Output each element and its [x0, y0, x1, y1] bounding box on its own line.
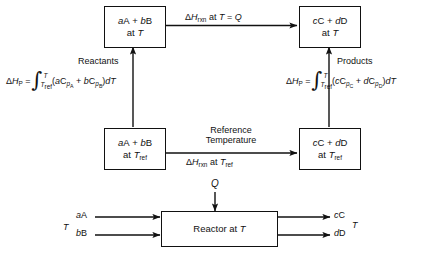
- label-heat-input: Q: [211, 178, 219, 189]
- label-inlet-b: bB: [76, 228, 87, 238]
- box-reactants-at-T-line1: aA + bB: [118, 15, 152, 27]
- integral-products-upper: T: [324, 73, 328, 80]
- integral-products-limits: T Tref: [322, 73, 333, 89]
- box-reactants-at-Tref: aA + bB at Tref: [104, 128, 166, 170]
- integral-reactants-limits: T Tref: [42, 73, 53, 89]
- box-products-at-Tref-line2: at Tref: [318, 149, 342, 161]
- integral-products-integrand: (cCpC + dCpD)dT: [332, 76, 396, 86]
- label-reference-reaction: ΔHrxn at Tref: [186, 157, 233, 167]
- box-products-at-Tref-line1: cC + dD: [313, 137, 348, 149]
- integral-products-lower: Tref: [321, 82, 333, 89]
- box-reactants-at-Tref-line1: aA + bB: [118, 137, 152, 149]
- integral-reactants-lower: Tref: [41, 82, 53, 89]
- integral-reactants-integrand: (aCpA + bCpB)dT: [52, 76, 116, 86]
- label-outlet-c: cC: [334, 210, 345, 220]
- box-reactor-label: Reactor at T: [193, 223, 245, 235]
- label-top-reaction: ΔHrxn at T = Q: [185, 12, 242, 22]
- label-reactants-side: Reactants: [78, 56, 119, 66]
- integral-products-lhs: ΔHP =: [286, 76, 311, 86]
- box-products-at-T-line1: cC + dD: [313, 15, 348, 27]
- label-reference-temperature: Reference Temperature: [189, 125, 273, 146]
- label-inlet-temperature: T: [63, 222, 69, 232]
- box-products-at-T: cC + dD at T: [299, 6, 361, 48]
- label-reference-temperature-line1: Reference: [210, 125, 252, 135]
- label-outlet-temperature: T: [352, 220, 358, 230]
- box-reactants-at-Tref-line2: at Tref: [123, 149, 147, 161]
- label-reference-temperature-line2: Temperature: [206, 135, 257, 145]
- box-products-at-Tref: cC + dD at Tref: [299, 128, 361, 170]
- box-products-at-T-line2: at T: [322, 27, 338, 39]
- box-reactor: Reactor at T: [161, 211, 278, 247]
- integral-products: ΔHP = ∫ T Tref (cCpC + dCpD)dT: [286, 73, 396, 89]
- integral-reactants-lhs: ΔHP =: [6, 76, 31, 86]
- label-inlet-a: aA: [76, 210, 87, 220]
- diagram-canvas: aA + bB at T cC + dD at T aA + bB at Tre…: [0, 0, 424, 256]
- label-products-side: Products: [337, 56, 373, 66]
- integral-reactants: ΔHP = ∫ T Tref (aCpA + bCpB)dT: [6, 73, 116, 89]
- integral-reactants-upper: T: [44, 73, 48, 80]
- box-reactants-at-T-line2: at T: [127, 27, 143, 39]
- label-outlet-d: dD: [334, 228, 346, 238]
- box-reactants-at-T: aA + bB at T: [104, 6, 166, 48]
